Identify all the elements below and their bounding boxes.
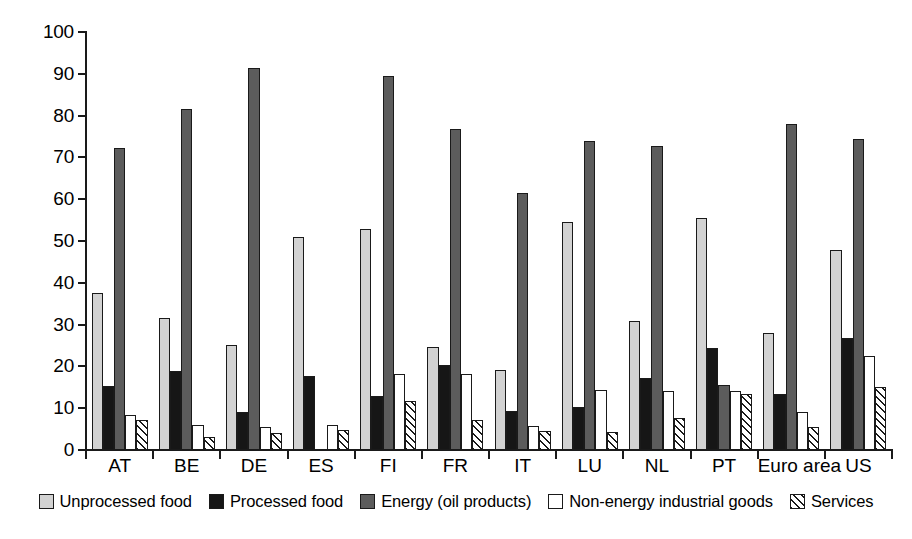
bar	[808, 427, 819, 450]
y-axis-labels: 0102030405060708090100	[0, 0, 74, 539]
y-axis-tick-label: 70	[4, 147, 74, 166]
x-axis-tick	[287, 450, 289, 459]
y-axis-tick	[78, 324, 86, 326]
bar	[103, 386, 114, 450]
legend-label: Services	[811, 492, 873, 510]
y-axis-tick-label: 90	[4, 64, 74, 83]
legend-swatch-icon	[39, 494, 54, 509]
x-axis-tick-label: PT	[691, 455, 758, 477]
x-axis-tick-label: AT	[86, 455, 153, 477]
bar	[786, 124, 797, 450]
bar	[159, 318, 170, 450]
bar	[853, 139, 864, 450]
legend-swatch-icon	[360, 494, 375, 509]
legend-label: Energy (oil products)	[381, 492, 531, 510]
bar	[260, 427, 271, 450]
bar	[506, 411, 517, 450]
legend-swatch-icon	[790, 494, 805, 509]
bar	[640, 378, 651, 450]
bar-chart-figure: 0102030405060708090100 ATBEDEESFIFRITLUN…	[0, 0, 912, 539]
bar	[461, 374, 472, 450]
y-axis-tick-label: 60	[4, 189, 74, 208]
bar	[517, 193, 528, 450]
bar	[875, 387, 886, 450]
bar	[114, 148, 125, 450]
x-axis-tick	[152, 450, 154, 459]
bar	[304, 376, 315, 450]
legend-item: Processed food	[209, 492, 343, 510]
x-axis-tick	[891, 450, 893, 459]
bar	[226, 345, 237, 450]
legend-item: Non-energy industrial goods	[548, 492, 773, 510]
bar	[170, 371, 181, 450]
x-axis-tick-label: BE	[153, 455, 220, 477]
y-axis-tick	[78, 407, 86, 409]
bar	[528, 426, 539, 450]
x-axis-tick	[555, 450, 557, 459]
bar	[383, 76, 394, 450]
bar	[573, 407, 584, 450]
x-axis-tick	[690, 450, 692, 459]
bar	[405, 401, 416, 450]
bar	[651, 146, 662, 450]
y-axis-tick	[78, 31, 86, 33]
bar	[427, 347, 438, 450]
x-axis-tick-label: DE	[220, 455, 287, 477]
y-axis-tick-label: 100	[4, 22, 74, 41]
bar	[674, 418, 685, 450]
x-axis-tick-label: LU	[556, 455, 623, 477]
x-axis-tick	[354, 450, 356, 459]
bar	[394, 374, 405, 450]
bar	[730, 391, 741, 450]
bar	[360, 229, 371, 450]
plot-area	[86, 32, 892, 450]
legend-swatch-icon	[209, 494, 224, 509]
y-axis-tick-label: 20	[4, 356, 74, 375]
chart-legend: Unprocessed foodProcessed foodEnergy (oi…	[0, 492, 912, 510]
bar	[663, 391, 674, 450]
legend-label: Unprocessed food	[60, 492, 192, 510]
y-axis-tick	[78, 115, 86, 117]
legend-item: Energy (oil products)	[360, 492, 531, 510]
x-axis-tick-label: NL	[623, 455, 690, 477]
x-axis-tick-label: Euro area	[758, 455, 825, 477]
y-axis-tick	[78, 365, 86, 367]
legend-label: Processed food	[230, 492, 343, 510]
bar	[327, 425, 338, 450]
y-axis-tick	[78, 240, 86, 242]
x-axis-tick	[421, 450, 423, 459]
bar	[181, 109, 192, 451]
bar	[472, 420, 483, 451]
bar	[607, 432, 618, 450]
bar	[495, 370, 506, 450]
bar	[774, 394, 785, 450]
bar	[539, 431, 550, 450]
bar	[696, 218, 707, 450]
bar	[248, 68, 259, 450]
x-axis-tick	[219, 450, 221, 459]
y-axis-tick	[78, 73, 86, 75]
bar	[595, 390, 606, 450]
x-axis-tick	[488, 450, 490, 459]
x-axis-tick-label: FI	[355, 455, 422, 477]
legend-label: Non-energy industrial goods	[569, 492, 773, 510]
bar	[741, 394, 752, 450]
bar	[629, 321, 640, 450]
x-axis-tick	[824, 450, 826, 459]
bar	[92, 293, 103, 450]
y-axis-tick	[78, 198, 86, 200]
x-axis-tick-label: ES	[288, 455, 355, 477]
x-axis-tick	[622, 450, 624, 459]
bar	[584, 141, 595, 450]
y-axis-tick-label: 30	[4, 315, 74, 334]
bar	[204, 437, 215, 450]
y-axis-tick-label: 50	[4, 231, 74, 250]
x-axis-tick-label: IT	[489, 455, 556, 477]
y-axis-tick-label: 80	[4, 106, 74, 125]
bar	[125, 415, 136, 450]
bar	[439, 365, 450, 450]
x-axis-tick-label: FR	[422, 455, 489, 477]
bar	[830, 250, 841, 450]
y-axis-tick-label: 40	[4, 273, 74, 292]
y-axis-tick	[78, 156, 86, 158]
